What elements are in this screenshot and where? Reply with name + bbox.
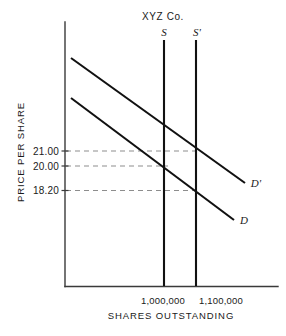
curve-label-s: S [161,26,167,38]
x-axis-title: SHARES OUTSTANDING [108,310,234,321]
y-tick-label-21-00: 21.00 [33,146,59,157]
chart-title: XYZ Co. [142,11,184,22]
x-tick-label-1000000: 1,000,000 [141,295,185,306]
chart-canvas: XYZ Co. S S' D' D 21.00 20.00 18.20 1,00… [0,0,286,336]
y-tick-label-20-00: 20.00 [33,161,59,172]
y-tick-label-18-20: 18.20 [33,185,59,196]
supply-demand-chart: XYZ Co. S S' D' D 21.00 20.00 18.20 1,00… [0,0,286,336]
curve-label-d: D [239,214,248,226]
curve-label-d-prime: D' [250,177,262,189]
y-axis-title: PRICE PER SHARE [15,102,26,202]
curve-label-s-prime: S' [193,26,202,38]
x-tick-label-1100000: 1,100,000 [199,295,243,306]
